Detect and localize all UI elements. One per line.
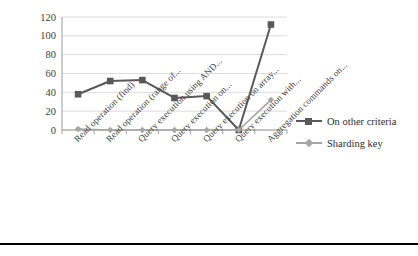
legend-label-on-other-criteria: On other criteria (327, 116, 396, 127)
line-chart-figure: 120100806040200 Read operation (find)Rea… (0, 0, 418, 256)
y-axis-tick-label: 20 (46, 106, 57, 117)
y-axis-tick-label: 40 (46, 87, 57, 98)
bottom-divider-rule (0, 243, 418, 245)
data-point-marker (268, 21, 275, 28)
legend-marker-square-icon (296, 115, 322, 127)
data-point-marker (139, 77, 146, 84)
data-point-marker (75, 91, 82, 98)
chart-legend: On other criteria Sharding key (296, 110, 416, 154)
legend-marker-diamond-icon (296, 137, 322, 149)
y-axis-tick-label: 100 (40, 30, 56, 41)
data-point-marker (107, 78, 114, 85)
y-axis-tick-label: 0 (51, 125, 56, 136)
legend-item-sharding-key[interactable]: Sharding key (296, 132, 416, 154)
legend-label-sharding-key: Sharding key (327, 138, 383, 149)
y-axis-tick-label: 120 (40, 12, 56, 23)
legend-item-on-other-criteria[interactable]: On other criteria (296, 110, 416, 132)
y-axis-tick-label: 60 (46, 68, 57, 79)
y-axis-tick-label: 80 (46, 49, 57, 60)
y-axis-labels-group: 120100806040200 (40, 12, 56, 136)
